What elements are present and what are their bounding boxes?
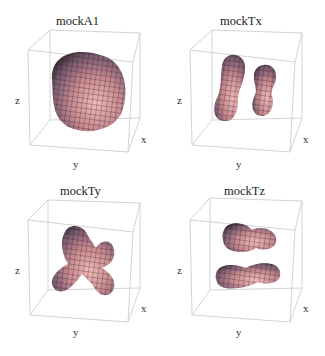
x-axis-label: x — [141, 133, 147, 145]
x-axis-label: x — [303, 302, 309, 314]
plot-3d-mockTz — [162, 178, 325, 356]
panel-title: mockA1 — [56, 14, 99, 29]
panel-mockTx: mockTx z y x — [162, 0, 324, 178]
y-axis-label: y — [73, 326, 79, 338]
panel-title: mockTz — [224, 184, 265, 199]
z-axis-label: z — [15, 264, 20, 276]
z-axis-label: z — [15, 94, 20, 106]
y-axis-label: y — [73, 158, 79, 170]
y-axis-label: y — [236, 326, 242, 338]
panel-mockTy: mockTy z y x — [0, 178, 162, 356]
y-axis-label: y — [236, 158, 242, 170]
panel-mockTz: mockTz z y x — [162, 178, 324, 356]
panel-mockA1: mockA1 z y x — [0, 0, 162, 178]
z-axis-label: z — [177, 264, 182, 276]
x-axis-label: x — [141, 302, 147, 314]
z-axis-label: z — [177, 94, 182, 106]
panel-title: mockTy — [60, 184, 101, 199]
x-axis-label: x — [303, 133, 309, 145]
panel-title: mockTx — [220, 14, 262, 29]
plot-3d-mockTy — [0, 178, 162, 356]
